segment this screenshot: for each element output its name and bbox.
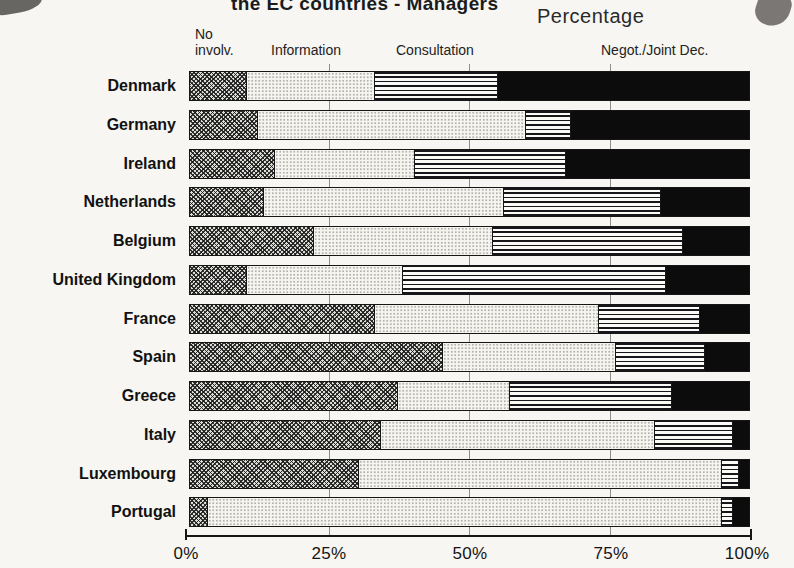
- stacked-bar: [189, 226, 750, 256]
- country-label: Belgium: [0, 226, 176, 256]
- country-label: Portugal: [0, 497, 176, 527]
- segment-solid-black: [732, 421, 749, 449]
- bar-row: Portugal: [0, 497, 780, 527]
- bar-row: Germany: [0, 110, 780, 140]
- segment-solid-black: [671, 382, 749, 410]
- segment-light-dots: [246, 266, 403, 294]
- segment-horizontal-lines: [374, 72, 497, 100]
- x-tick-25: 25%: [294, 544, 364, 564]
- stacked-bar: [189, 381, 750, 411]
- chart-title: the EC countries - Managers: [231, 0, 498, 15]
- legend-label-no-involv: No involv.: [195, 26, 247, 58]
- segment-light-dots: [380, 421, 654, 449]
- segment-solid-black: [699, 305, 749, 333]
- segment-dark-crosshatch: [190, 460, 358, 488]
- segment-horizontal-lines: [525, 111, 570, 139]
- legend-label-consultation: Consultation: [396, 42, 474, 58]
- segment-horizontal-lines: [509, 382, 671, 410]
- segment-solid-black: [570, 111, 749, 139]
- segment-dark-crosshatch: [190, 498, 207, 526]
- segment-horizontal-lines: [654, 421, 732, 449]
- x-axis-line: [185, 535, 752, 537]
- segment-horizontal-lines: [503, 188, 660, 216]
- legend-label-information: Information: [271, 42, 341, 58]
- segment-solid-black: [565, 150, 749, 178]
- country-label: United Kingdom: [0, 265, 176, 295]
- segment-horizontal-lines: [721, 460, 738, 488]
- segment-dark-crosshatch: [190, 227, 313, 255]
- stacked-bar: [189, 149, 750, 179]
- percentage-axis-title: Percentage: [537, 5, 644, 28]
- x-tick-0: 0%: [151, 544, 221, 564]
- segment-horizontal-lines: [721, 498, 732, 526]
- stacked-bar: [189, 304, 750, 334]
- segment-solid-black: [732, 498, 749, 526]
- stacked-bar: [189, 420, 750, 450]
- segment-solid-black: [497, 72, 749, 100]
- bar-row: Greece: [0, 381, 780, 411]
- stacked-bar: [189, 497, 750, 527]
- segment-solid-black: [660, 188, 749, 216]
- country-label: Italy: [0, 420, 176, 450]
- bar-row: France: [0, 304, 780, 334]
- bar-row: United Kingdom: [0, 265, 780, 295]
- x-tick-75: 75%: [576, 544, 646, 564]
- segment-dark-crosshatch: [190, 150, 274, 178]
- bar-row: Luxembourg: [0, 459, 780, 489]
- country-label: Luxembourg: [0, 459, 176, 489]
- legend-label-negot-joint-dec: Negot./Joint Dec.: [601, 42, 708, 58]
- country-label: Netherlands: [0, 187, 176, 217]
- stacked-bar: [189, 71, 750, 101]
- segment-solid-black: [682, 227, 749, 255]
- segment-horizontal-lines: [615, 343, 704, 371]
- x-axis-right-cap: [750, 529, 752, 540]
- segment-light-dots: [207, 498, 721, 526]
- segment-light-dots: [397, 382, 509, 410]
- country-label: Greece: [0, 381, 176, 411]
- x-axis-left-cap: [185, 529, 187, 540]
- segment-dark-crosshatch: [190, 72, 246, 100]
- stacked-bar: [189, 459, 750, 489]
- country-label: Denmark: [0, 71, 176, 101]
- segment-horizontal-lines: [402, 266, 665, 294]
- scan-artifact-top-right: [752, 0, 794, 30]
- segment-dark-crosshatch: [190, 266, 246, 294]
- country-label: France: [0, 304, 176, 334]
- segment-dark-crosshatch: [190, 382, 397, 410]
- x-tick-50: 50%: [435, 544, 505, 564]
- segment-light-dots: [442, 343, 615, 371]
- bar-row: Netherlands: [0, 187, 780, 217]
- country-label: Spain: [0, 342, 176, 372]
- bar-row: Italy: [0, 420, 780, 450]
- segment-light-dots: [257, 111, 525, 139]
- segment-solid-black: [738, 460, 749, 488]
- segment-light-dots: [374, 305, 598, 333]
- segment-horizontal-lines: [492, 227, 682, 255]
- stacked-bar: [189, 187, 750, 217]
- segment-light-dots: [274, 150, 414, 178]
- bar-row: Ireland: [0, 149, 780, 179]
- segment-dark-crosshatch: [190, 343, 442, 371]
- x-tick-100: 100%: [712, 544, 782, 564]
- segment-dark-crosshatch: [190, 111, 257, 139]
- segment-dark-crosshatch: [190, 305, 374, 333]
- segment-solid-black: [704, 343, 749, 371]
- segment-horizontal-lines: [598, 305, 699, 333]
- segment-light-dots: [358, 460, 721, 488]
- segment-solid-black: [665, 266, 749, 294]
- country-label: Ireland: [0, 149, 176, 179]
- scan-artifact-top-left: [0, 0, 44, 17]
- segment-horizontal-lines: [414, 150, 565, 178]
- segment-light-dots: [313, 227, 492, 255]
- segment-light-dots: [263, 188, 503, 216]
- segment-light-dots: [246, 72, 375, 100]
- segment-dark-crosshatch: [190, 421, 380, 449]
- bar-row: Belgium: [0, 226, 780, 256]
- stacked-bar: [189, 342, 750, 372]
- stacked-bar: [189, 265, 750, 295]
- country-label: Germany: [0, 110, 176, 140]
- stacked-bar: [189, 110, 750, 140]
- bar-row: Spain: [0, 342, 780, 372]
- bar-row: Denmark: [0, 71, 780, 101]
